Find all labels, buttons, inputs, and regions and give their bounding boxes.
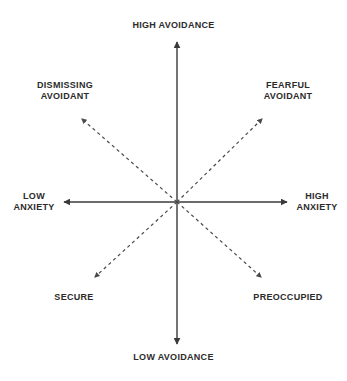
quadrant-label-secure: SECURE: [26, 292, 122, 303]
quadrant-label-dismissing-avoidant: DISMISSING AVOIDANT: [17, 80, 113, 102]
diagonal-arrow-fearful-avoidant: [177, 119, 262, 202]
diagonal-arrow-dismissing-avoidant: [82, 119, 177, 202]
axis-label-low-avoidance: LOW AVOIDANCE: [0, 352, 347, 363]
diagonal-arrow-preoccupied: [177, 202, 261, 277]
axis-label-low-anxiety: LOW ANXIETY: [8, 191, 60, 213]
quadrant-label-fearful-avoidant: FEARFUL AVOIDANT: [240, 80, 336, 102]
quadrant-label-preoccupied: PREOCCUPIED: [235, 292, 341, 303]
attachment-style-quadrant-diagram: HIGH AVOIDANCE LOW AVOIDANCE LOW ANXIETY…: [0, 0, 347, 381]
axis-label-high-anxiety: HIGH ANXIETY: [291, 191, 343, 213]
diagonal-arrow-secure: [95, 202, 177, 277]
axis-label-high-avoidance: HIGH AVOIDANCE: [0, 20, 347, 31]
